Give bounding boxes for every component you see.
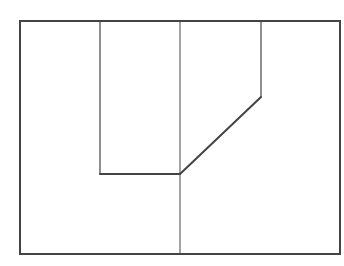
line-diagram [0,0,344,266]
diagram-lines [100,21,261,254]
diagonal-segment [180,97,261,174]
